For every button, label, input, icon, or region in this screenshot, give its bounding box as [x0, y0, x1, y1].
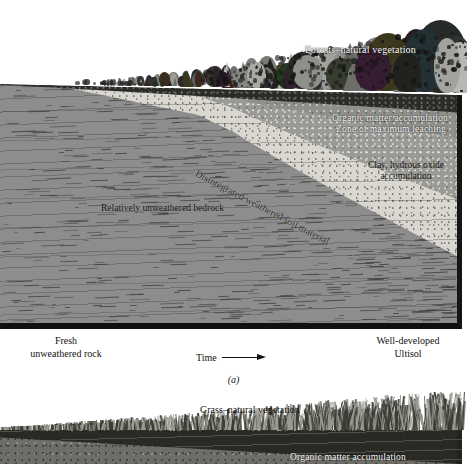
fresh-line-1: Fresh — [6, 335, 126, 348]
horizon-wedges — [0, 66, 462, 329]
label-grass-natural-vegetation: Grass–natural vegetation — [200, 404, 300, 415]
ultisol-line-2: Ultisol — [352, 348, 464, 361]
label-forests-natural-vegetation: Forests–natural vegetation — [305, 44, 416, 55]
panel-a: Forests–natural vegetation Organic matte… — [0, 0, 467, 340]
arrow-right-icon — [222, 354, 266, 361]
figure-soil-formation: Forests–natural vegetation Organic matte… — [0, 0, 467, 464]
label-fresh-unweathered-rock: Fresh unweathered rock — [6, 335, 126, 360]
grass-vegetation — [0, 392, 467, 438]
label-clay-hydrous-oxide-accumulation: Clay, hydrous oxide accumulation — [352, 160, 460, 182]
label-zone-of-maximum-leaching: Zone of maximum leaching — [336, 124, 446, 134]
panel-a-caption: (a) — [0, 374, 467, 385]
time-axis: Time — [196, 352, 266, 363]
label-well-developed-ultisol: Well-developed Ultisol — [352, 335, 464, 360]
label-organic-matter-accumulation-b: Organic matter accumulation — [290, 452, 406, 462]
label-organic-matter-accumulation-a: Organic matter accumulation — [332, 113, 448, 123]
ultisol-line-1: Well-developed — [352, 335, 464, 348]
soil-profile-block-a — [0, 66, 462, 329]
label-relatively-unweathered-bedrock: Relatively unweathered bedrock — [101, 203, 224, 213]
fresh-line-2: unweathered rock — [6, 348, 126, 361]
time-axis-label: Time — [196, 352, 217, 363]
